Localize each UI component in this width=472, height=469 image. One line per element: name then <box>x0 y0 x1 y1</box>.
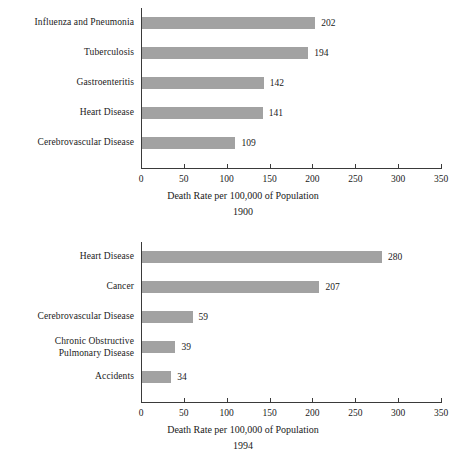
category-label-line: Influenza and Pneumonia <box>0 17 134 29</box>
x-axis-title: Death Rate per 100,000 of Population <box>0 424 472 435</box>
x-axis-tick-label: 100 <box>220 408 234 418</box>
bar-row: Cerebrovascular Disease59 <box>0 302 472 332</box>
bar-row: Heart Disease280 <box>0 242 472 272</box>
x-axis-tick <box>312 164 313 168</box>
bar-chart-1994: Heart Disease280Cancer207Cerebrovascular… <box>0 234 472 469</box>
bar <box>142 17 315 29</box>
x-axis-tick <box>227 164 228 168</box>
x-axis-tick <box>184 398 185 402</box>
bar-value-label: 34 <box>177 372 187 382</box>
x-axis-tick <box>441 398 442 402</box>
x-axis-tick-label: 350 <box>434 174 448 184</box>
bar-value-label: 202 <box>321 18 335 28</box>
x-axis-tick <box>355 164 356 168</box>
category-label: Tuberculosis <box>0 47 134 59</box>
bar-value-label: 39 <box>181 342 191 352</box>
x-axis-tick <box>270 398 271 402</box>
x-axis-tick <box>355 398 356 402</box>
bar-value-label: 141 <box>269 108 283 118</box>
bar <box>142 281 319 293</box>
bar <box>142 341 175 353</box>
bar <box>142 251 382 263</box>
x-axis-tick-label: 150 <box>262 174 276 184</box>
category-label-line: Heart Disease <box>0 251 134 263</box>
category-label-line: Cerebrovascular Disease <box>0 311 134 323</box>
category-label: Cerebrovascular Disease <box>0 137 134 149</box>
category-label: Cerebrovascular Disease <box>0 311 134 323</box>
bar-row: Accidents34 <box>0 362 472 392</box>
chart-year-caption: 1994 <box>0 440 472 451</box>
bar-value-label: 194 <box>314 48 328 58</box>
category-label: Influenza and Pneumonia <box>0 17 134 29</box>
x-axis-line <box>141 402 442 403</box>
category-label: Accidents <box>0 371 134 383</box>
category-label-line: Chronic Obstructive <box>0 336 134 348</box>
x-axis-tick <box>312 398 313 402</box>
x-axis-tick-label: 50 <box>179 408 189 418</box>
category-label-line: Pulmonary Disease <box>0 347 134 359</box>
bar-row: Cerebrovascular Disease109 <box>0 128 472 158</box>
x-axis-tick <box>441 164 442 168</box>
x-axis-tick <box>141 398 142 402</box>
x-axis-tick <box>270 164 271 168</box>
x-axis-tick-label: 300 <box>391 174 405 184</box>
x-axis-tick-label: 250 <box>348 174 362 184</box>
category-label: Heart Disease <box>0 107 134 119</box>
plot-area: Heart Disease280Cancer207Cerebrovascular… <box>0 234 472 414</box>
bar <box>142 47 308 59</box>
category-label-line: Gastroenteritis <box>0 77 134 89</box>
x-axis-tick-label: 100 <box>220 174 234 184</box>
x-axis-tick-label: 0 <box>139 408 144 418</box>
category-label: Chronic ObstructivePulmonary Disease <box>0 336 134 359</box>
bar-value-label: 59 <box>199 312 209 322</box>
category-label-line: Cancer <box>0 281 134 293</box>
bar <box>142 371 171 383</box>
category-label-line: Accidents <box>0 371 134 383</box>
bar-row: Influenza and Pneumonia202 <box>0 8 472 38</box>
category-label: Cancer <box>0 281 134 293</box>
x-axis-tick <box>184 164 185 168</box>
bar-value-label: 207 <box>325 282 339 292</box>
bar-row: Cancer207 <box>0 272 472 302</box>
category-label-line: Heart Disease <box>0 107 134 119</box>
x-axis-tick <box>141 164 142 168</box>
bar-row: Heart Disease141 <box>0 98 472 128</box>
x-axis-line <box>141 168 442 169</box>
x-axis-tick-label: 350 <box>434 408 448 418</box>
bar-row: Gastroenteritis142 <box>0 68 472 98</box>
category-label: Heart Disease <box>0 251 134 263</box>
x-axis-tick <box>398 164 399 168</box>
x-axis-title: Death Rate per 100,000 of Population <box>0 190 472 201</box>
x-axis-tick-label: 200 <box>305 408 319 418</box>
x-axis-tick <box>398 398 399 402</box>
x-axis-tick-label: 50 <box>179 174 189 184</box>
plot-area: Influenza and Pneumonia202Tuberculosis19… <box>0 0 472 180</box>
bar-row: Tuberculosis194 <box>0 38 472 68</box>
category-label-line: Tuberculosis <box>0 47 134 59</box>
chart-year-caption: 1900 <box>0 206 472 217</box>
bar <box>142 311 193 323</box>
bar <box>142 137 235 149</box>
x-axis-tick-label: 200 <box>305 174 319 184</box>
x-axis-tick-label: 0 <box>139 174 144 184</box>
x-axis-tick-label: 150 <box>262 408 276 418</box>
bar-chart-1900: Influenza and Pneumonia202Tuberculosis19… <box>0 0 472 235</box>
category-label-line: Cerebrovascular Disease <box>0 137 134 149</box>
category-label: Gastroenteritis <box>0 77 134 89</box>
x-axis-tick <box>227 398 228 402</box>
bar-value-label: 142 <box>270 78 284 88</box>
bar-value-label: 280 <box>388 252 402 262</box>
bar <box>142 77 264 89</box>
bar <box>142 107 263 119</box>
bar-row: Chronic ObstructivePulmonary Disease39 <box>0 332 472 362</box>
x-axis-tick-label: 300 <box>391 408 405 418</box>
bar-value-label: 109 <box>241 138 255 148</box>
x-axis-tick-label: 250 <box>348 408 362 418</box>
